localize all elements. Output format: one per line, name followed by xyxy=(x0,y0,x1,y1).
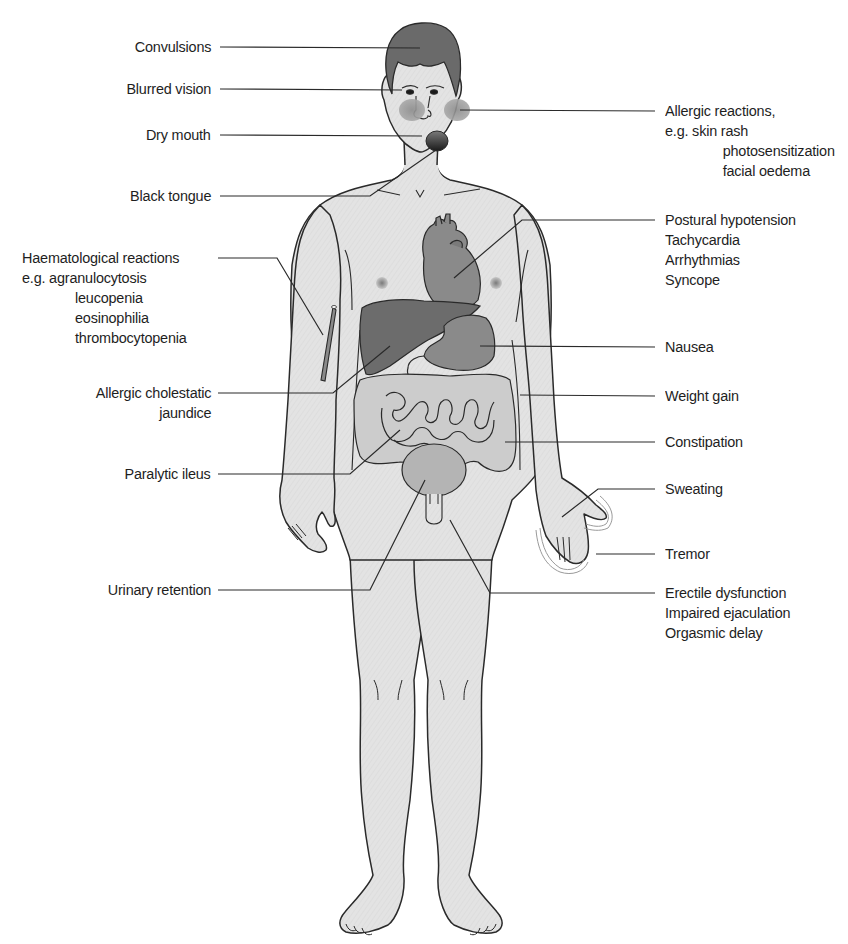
label-tremor: Tremor xyxy=(665,544,710,564)
label-sexual-dysfunction: Erectile dysfunction Impaired ejaculatio… xyxy=(665,583,790,643)
label-urinary-retention: Urinary retention xyxy=(108,580,211,600)
nipple-right xyxy=(490,277,502,289)
label-constipation: Constipation xyxy=(665,432,743,452)
label-allergic-cholestatic-jaundice: Allergic cholestatic jaundice xyxy=(95,383,211,423)
label-haematological-reactions: Haematological reactions e.g. agranulocy… xyxy=(22,248,187,348)
genitals xyxy=(426,494,442,524)
cheek-rash-left xyxy=(399,99,425,121)
label-nausea: Nausea xyxy=(665,337,714,357)
leader-blurred-vision xyxy=(220,89,402,90)
right-leg xyxy=(414,555,502,933)
left-leg xyxy=(340,555,428,933)
label-sweating: Sweating xyxy=(665,479,723,499)
label-blurred-vision: Blurred vision xyxy=(126,79,211,99)
label-weight-gain: Weight gain xyxy=(665,386,739,406)
leader-allergic-reactions xyxy=(460,110,655,111)
left-arm xyxy=(280,205,341,552)
bladder xyxy=(402,444,466,496)
leader-dry-mouth xyxy=(220,135,422,136)
label-allergic-reactions: Allergic reactions, e.g. skin rash photo… xyxy=(665,101,835,181)
tongue xyxy=(426,131,448,151)
label-paralytic-ileus: Paralytic ileus xyxy=(125,464,211,484)
label-dry-mouth: Dry mouth xyxy=(146,125,211,145)
label-convulsions: Convulsions xyxy=(135,37,211,57)
label-black-tongue: Black tongue xyxy=(130,186,211,206)
label-cardiovascular-effects: Postural hypotension Tachycardia Arrhyth… xyxy=(665,210,796,290)
nipple-left xyxy=(376,277,388,289)
adverse-effects-figure: Convulsions Blurred vision Dry mouth Bla… xyxy=(0,0,848,944)
